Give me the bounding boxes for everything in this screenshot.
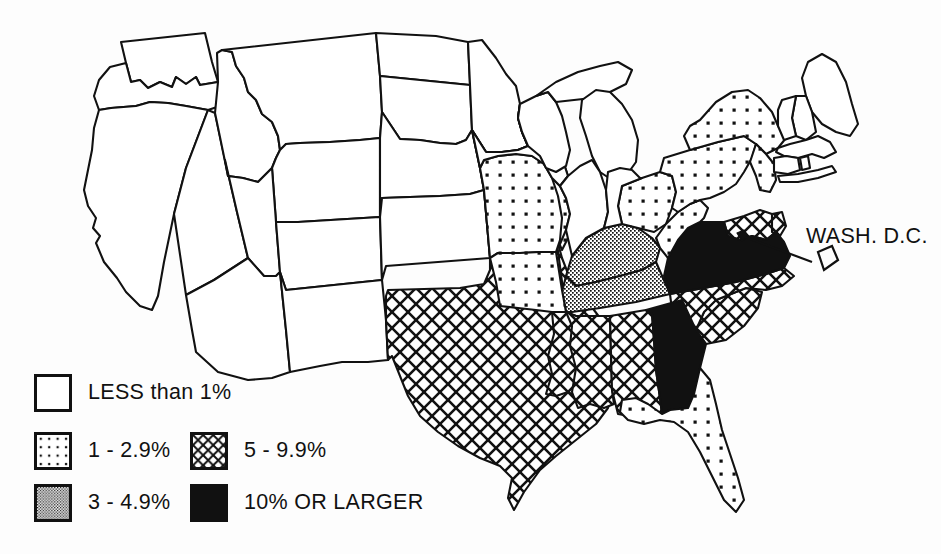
state-ms (566, 312, 614, 408)
legend-label-10-or-larger: 10% OR LARGER (244, 492, 424, 514)
legend-label-less-than-1: LESS than 1% (88, 382, 231, 404)
legend-label-5-9.9: 5 - 9.9% (244, 440, 326, 462)
state-wa (121, 33, 218, 88)
legend-swatch-dots (34, 432, 72, 470)
legend-item-10-or-larger: 10% OR LARGER (190, 484, 424, 522)
legend-item-1-2.9: 1 - 2.9% (34, 432, 170, 470)
legend-label-3-4.9: 3 - 4.9% (88, 492, 170, 514)
map-legend: LESS than 1% 1 - 2.9% 3 - 4.9% 5 - 9.9% (34, 374, 364, 544)
legend-swatch-solid (190, 484, 228, 522)
legend-item-less-than-1: LESS than 1% (34, 374, 231, 412)
legend-swatch-crosshatch (190, 432, 228, 470)
state-ct (774, 156, 800, 174)
state-mn (468, 40, 528, 152)
state-co (276, 217, 382, 290)
legend-item-3-4.9: 3 - 4.9% (34, 484, 170, 522)
state-ar (490, 252, 566, 312)
legend-label-1-2.9: 1 - 2.9% (88, 440, 170, 462)
legend-swatch-stipple (34, 484, 72, 522)
map-figure: WASH. D.C. LESS than 1% 1 - 2.9% 3 - 4.9… (0, 0, 941, 554)
state-pa (660, 136, 756, 212)
wash-dc-label: WASH. D.C. (806, 226, 928, 248)
legend-swatch-blank (34, 374, 72, 412)
state-wy (272, 138, 380, 222)
state-ri (800, 156, 810, 170)
state-ks (380, 190, 490, 280)
state-mi-up (536, 62, 632, 102)
legend-item-5-9.9: 5 - 9.9% (190, 432, 326, 470)
